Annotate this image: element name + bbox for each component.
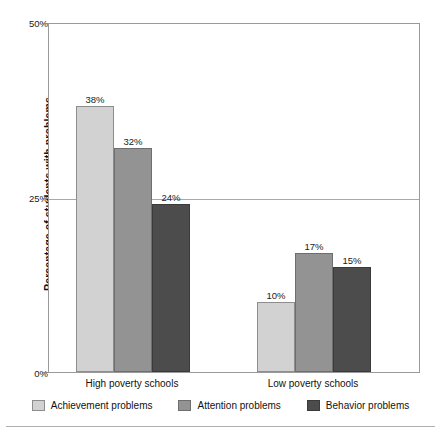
- legend-swatch-icon: [307, 400, 320, 411]
- x-category-label: Low poverty schools: [213, 378, 413, 389]
- legend-item: Attention problems: [178, 400, 280, 411]
- chart-legend: Achievement problemsAttention problemsBe…: [0, 400, 441, 411]
- y-tick-label-50: 50%: [4, 18, 48, 29]
- legend-item: Achievement problems: [32, 400, 153, 411]
- bar-chart-figure: Percentage of students with problems 50%…: [0, 0, 441, 433]
- legend-label: Attention problems: [197, 400, 280, 411]
- bar: [333, 267, 371, 372]
- legend-label: Achievement problems: [51, 400, 153, 411]
- bar: [257, 302, 295, 372]
- x-category-label: High poverty schools: [32, 378, 232, 389]
- bar-value-label: 32%: [103, 136, 163, 147]
- bar-value-label: 38%: [65, 94, 125, 105]
- bar: [114, 148, 152, 372]
- legend-swatch-icon: [32, 400, 45, 411]
- legend-swatch-icon: [178, 400, 191, 411]
- bar: [152, 204, 190, 372]
- plot-area: 38%32%24%10%17%15%: [48, 23, 420, 373]
- y-tick-label-25: 25%: [4, 193, 48, 204]
- bar: [295, 253, 333, 372]
- bottom-divider: [6, 426, 435, 427]
- legend-item: Behavior problems: [307, 400, 409, 411]
- bar-value-label: 17%: [284, 241, 344, 252]
- y-axis: 50%25%0%: [0, 23, 48, 373]
- bar-value-label: 15%: [322, 255, 382, 266]
- legend-label: Behavior problems: [326, 400, 409, 411]
- y-tick-label-0: 0%: [4, 368, 48, 379]
- bar-value-label: 24%: [141, 192, 201, 203]
